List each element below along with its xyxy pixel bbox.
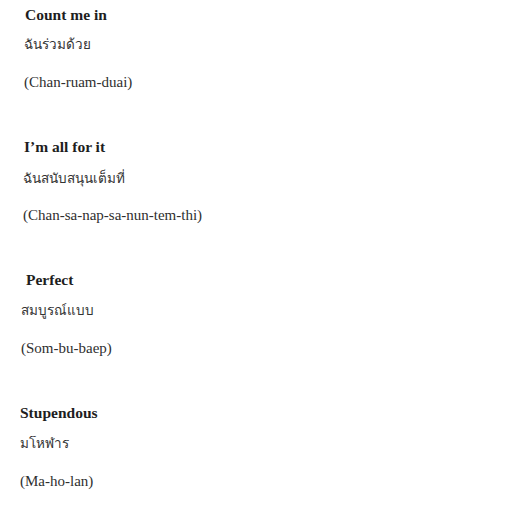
phrase-romanization: (Ma-ho-lan) (20, 474, 93, 489)
phrase-english: Stupendous (20, 405, 98, 421)
phrase-thai: มโหฬาร (20, 437, 69, 451)
phrase-romanization: (Chan-sa-nap-sa-nun-tem-thi) (23, 208, 202, 223)
phrase-thai: ฉันสนับสนุนเต็มที่ (23, 172, 125, 186)
phrase-english: Count me in (25, 7, 107, 23)
phrase-thai: ฉันร่วมด้วย (24, 38, 91, 52)
phrase-romanization: (Chan-ruam-duai) (24, 75, 132, 90)
phrase-thai: สมบูรณ์แบบ (21, 304, 94, 318)
phrase-english: Perfect (26, 272, 73, 288)
phrase-english: I’m all for it (24, 139, 105, 155)
phrase-romanization: (Som-bu-baep) (21, 341, 112, 356)
